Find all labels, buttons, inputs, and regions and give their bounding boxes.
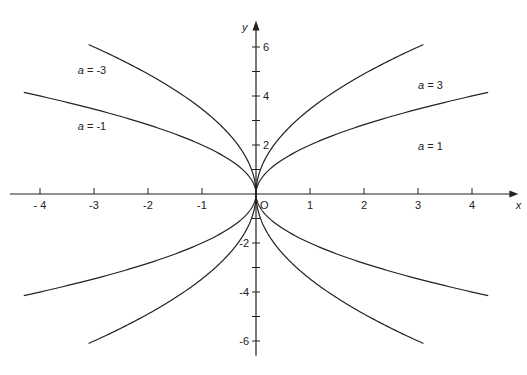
curve-a-1-lower <box>256 194 488 296</box>
curve-a--3-upper <box>89 45 256 194</box>
series-label: a = 3 <box>418 79 443 91</box>
curve-a--1-upper <box>24 92 256 194</box>
x-tick-label: 1 <box>307 199 313 211</box>
curve-a-3-upper <box>256 45 423 194</box>
y-axis-arrow-icon <box>253 21 260 31</box>
series-label: a = 1 <box>418 140 443 152</box>
curve-a--1-lower <box>24 194 256 296</box>
x-tick-label: -1 <box>197 199 207 211</box>
series-label: a = -3 <box>78 64 106 76</box>
series-label: a = -1 <box>78 120 106 132</box>
origin-label: O <box>260 199 269 211</box>
x-axis-arrow-icon <box>509 191 518 198</box>
y-tick-label: 2 <box>263 139 269 151</box>
x-tick-label: 2 <box>361 199 367 211</box>
labels: - 4-3-2-11234-6-4-2246xyOa = 3a = 1a = -… <box>34 21 522 348</box>
x-tick-label: - 4 <box>34 199 47 211</box>
y-tick-label: -6 <box>239 335 249 347</box>
x-tick-label: 3 <box>415 199 421 211</box>
curve-a-3-lower <box>256 194 423 343</box>
curve-a--3-lower <box>89 194 256 343</box>
y-tick-label: 6 <box>263 41 269 53</box>
x-tick-label: -2 <box>143 199 153 211</box>
y-tick-label: -4 <box>239 286 249 298</box>
y-axis-label: y <box>241 21 249 33</box>
x-axis-label: x <box>515 199 522 211</box>
x-tick-label: 4 <box>469 199 475 211</box>
parabola-family-chart: - 4-3-2-11234-6-4-2246xyOa = 3a = 1a = -… <box>0 0 527 375</box>
y-tick-label: 4 <box>263 90 269 102</box>
x-tick-label: -3 <box>89 199 99 211</box>
curve-a-1-upper <box>256 92 488 194</box>
y-tick-label: -2 <box>239 237 249 249</box>
